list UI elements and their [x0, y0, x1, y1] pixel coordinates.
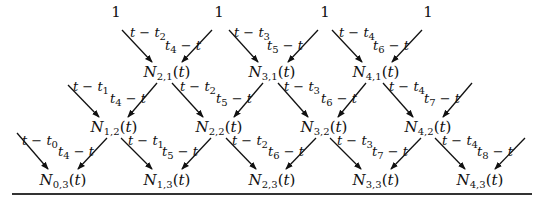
weight-label: t7 − t — [372, 145, 408, 161]
weight-label: t4 − t — [110, 92, 146, 108]
weight-label: t6 − t — [321, 92, 357, 108]
weight-label: t5 − t — [162, 145, 198, 161]
weight-label: t6 − t — [373, 39, 409, 55]
weight-label: t − t1 — [128, 134, 164, 150]
weight-label: t6 − t — [268, 145, 304, 161]
weight-label: t − t2 — [180, 80, 216, 96]
weight-label: t7 − t — [424, 92, 460, 108]
basis-node-4-3: N4,3(t) — [457, 173, 504, 190]
weight-label: t4 − t — [58, 145, 94, 161]
weight-label: t − t2 — [232, 134, 268, 150]
weight-label: t − t4 — [442, 134, 478, 150]
basis-node-0-3: N0,3(t) — [40, 173, 87, 190]
weight-label: t − t0 — [22, 134, 58, 150]
weight-label: t − t3 — [337, 134, 373, 150]
weight-label: t4 − t — [165, 39, 201, 55]
weight-label: t − t3 — [284, 80, 320, 96]
weight-label: t5 − t — [267, 39, 303, 55]
base-one: 1 — [423, 5, 433, 20]
weight-label: t8 − t — [477, 145, 513, 161]
separator-rule — [12, 193, 532, 195]
weight-label: t − t3 — [234, 26, 270, 42]
weight-label: t5 − t — [216, 92, 252, 108]
weight-label: t − t4 — [389, 80, 425, 96]
base-one: 1 — [214, 5, 224, 20]
basis-node-3-3: N3,3(t) — [353, 173, 400, 190]
base-one: 1 — [111, 5, 121, 20]
weight-label: t − t2 — [130, 26, 166, 42]
weight-label: t − t4 — [339, 26, 375, 42]
basis-node-1-3: N1,3(t) — [144, 173, 191, 190]
basis-node-2-3: N2,3(t) — [249, 173, 296, 190]
recursion-arrows — [0, 0, 543, 197]
weight-label: t − t1 — [73, 80, 109, 96]
base-one: 1 — [320, 5, 330, 20]
